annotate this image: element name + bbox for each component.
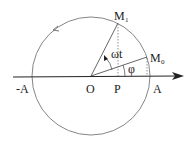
label-phi: φ bbox=[128, 62, 135, 76]
shm-phasor-diagram: -A O P A M 1 M 0 ωt φ bbox=[0, 0, 191, 142]
label-m0: M bbox=[150, 51, 161, 65]
x-axis bbox=[13, 76, 178, 77]
label-p: P bbox=[114, 82, 121, 96]
label-pos-a: A bbox=[153, 82, 162, 96]
label-omega-t: ωt bbox=[111, 47, 123, 61]
label-m1: M bbox=[114, 9, 125, 23]
phi-arc bbox=[123, 65, 125, 76]
label-origin: O bbox=[86, 82, 95, 96]
label-m1-sub: 1 bbox=[125, 16, 129, 24]
label-neg-a: -A bbox=[16, 82, 29, 96]
label-m0-sub: 0 bbox=[161, 58, 165, 66]
